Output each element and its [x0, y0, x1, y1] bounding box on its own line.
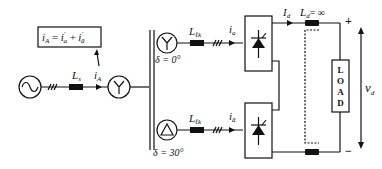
vd-arrow-down-icon	[358, 142, 364, 149]
line-current-arrow-icon	[96, 84, 102, 90]
twelve-pulse-rectifier-diagram: Ls iA iA=i′a+i′ā δ = 0° Lℓk ia δ = 30° L…	[0, 0, 382, 169]
secondary-2-current-label: iā	[229, 110, 236, 124]
three-phase-hatch-icon	[48, 84, 57, 90]
dc-inductor-label: Ld= ∞	[299, 6, 325, 20]
dc-current-arrow-icon	[287, 20, 293, 26]
secondary-delta-winding-icon	[157, 120, 177, 140]
secondary-1-current-label: ia	[229, 23, 236, 37]
line-inductor-label: Ls	[71, 69, 81, 83]
secondary-1-current-arrow-icon	[229, 40, 235, 46]
series-link	[272, 61, 279, 110]
dc-return-inductor-icon	[305, 149, 319, 155]
thyristor-converter-1	[245, 16, 272, 71]
load-letter: A	[337, 87, 344, 97]
three-phase-hatch-icon	[213, 40, 222, 46]
load-letter: D	[337, 98, 344, 108]
secondary-2-inductor-icon	[190, 127, 204, 133]
dc-inductor-icon	[305, 20, 319, 26]
vd-arrow-up-icon	[358, 27, 364, 34]
load-letter: O	[337, 76, 344, 86]
secondary-2-inductor-label: Lℓk	[188, 112, 202, 126]
secondary-1-phase-label: δ = 0°	[155, 54, 180, 65]
dashed-path	[305, 30, 319, 143]
secondary-2-phase-label: δ = 30°	[153, 147, 183, 158]
dc-voltage-label: vd	[365, 80, 375, 97]
dc-current-label: Id	[282, 6, 291, 20]
load-letter: L	[337, 65, 343, 75]
secondary-1-inductor-label: Lℓk	[188, 25, 202, 39]
secondary-2-current-arrow-icon	[229, 127, 235, 133]
equation-text: iA=i′a+i′ā	[42, 30, 85, 45]
secondary-1-inductor-icon	[190, 40, 204, 46]
dc-plus-terminal: +	[345, 14, 352, 28]
ac-source-icon	[19, 76, 41, 98]
line-inductor-icon	[69, 84, 83, 90]
dc-minus-terminal: −	[345, 144, 352, 158]
thyristor-converter-2	[245, 103, 272, 158]
primary-wye-winding-icon	[108, 76, 130, 98]
line-current-label: iA	[94, 69, 102, 83]
secondary-wye-winding-icon	[157, 33, 177, 53]
three-phase-hatch-icon	[213, 127, 222, 133]
equation-pointer-arrow-icon	[94, 49, 99, 55]
